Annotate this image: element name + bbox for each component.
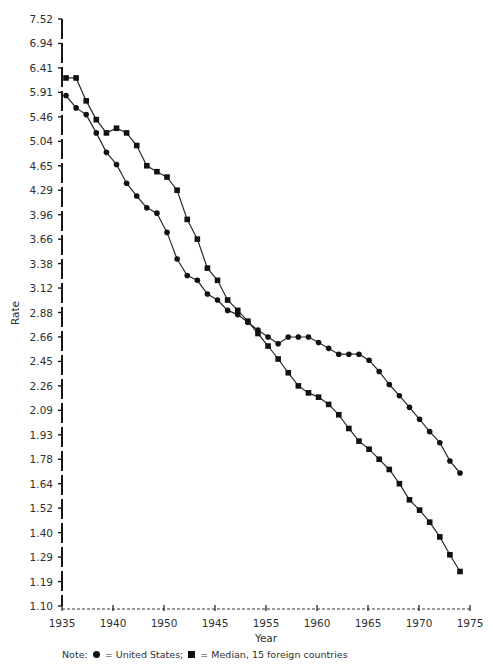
circle-marker-icon (124, 180, 130, 186)
circle-marker-icon (386, 382, 392, 388)
square-marker-icon (205, 265, 211, 271)
y-tick-label: 1.10 (30, 600, 53, 612)
y-tick-label: 7.52 (30, 13, 53, 25)
circle-marker-icon (296, 334, 302, 340)
square-marker-icon (306, 390, 312, 396)
square-marker-icon (134, 143, 140, 149)
y-tick-label: 5.46 (30, 111, 54, 123)
legend-note: Note: = United States; = Median, 15 fore… (62, 649, 348, 660)
square-marker-icon (437, 534, 443, 540)
square-marker-icon (144, 163, 150, 169)
x-axis: 193519401950194519551960196519701975 (49, 605, 484, 629)
square-marker-icon (296, 383, 302, 389)
square-marker-icon (326, 402, 332, 408)
square-marker-icon (174, 187, 180, 193)
square-marker-icon (104, 130, 110, 136)
series-foreign-median (63, 75, 463, 574)
x-tick-label: 1945 (202, 617, 229, 629)
y-tick-label: 3.66 (30, 233, 54, 245)
circle-marker-icon (437, 440, 443, 446)
circle-marker-icon (205, 291, 211, 297)
square-marker-icon (366, 446, 372, 452)
circle-marker-icon (417, 416, 423, 422)
square-marker-icon (397, 481, 403, 487)
circle-marker-icon (144, 205, 150, 211)
y-axis: 7.526.946.415.915.465.044.654.293.963.66… (30, 13, 62, 612)
square-marker-icon (63, 75, 69, 81)
x-tick-label: 1935 (49, 617, 76, 629)
square-marker-icon (265, 343, 271, 349)
y-tick-label: 1.64 (30, 478, 54, 490)
circle-marker-icon (316, 340, 322, 346)
circle-marker-icon (83, 112, 89, 118)
x-tick-label: 1975 (457, 617, 484, 629)
y-tick-label: 5.04 (30, 135, 54, 147)
circle-marker-icon (93, 651, 100, 658)
square-marker-icon (245, 318, 251, 324)
circle-marker-icon (114, 162, 120, 168)
series-layer (63, 75, 463, 574)
x-tick-label: 1970 (406, 617, 433, 629)
circle-marker-icon (63, 93, 69, 99)
circle-marker-icon (356, 351, 362, 357)
y-tick-label: 4.29 (30, 184, 53, 196)
circle-marker-icon (285, 334, 291, 340)
circle-marker-icon (447, 458, 453, 464)
y-tick-label: 2.66 (30, 331, 54, 343)
line-chart: 7.526.946.415.915.465.044.654.293.963.66… (0, 0, 493, 669)
square-marker-icon (94, 117, 100, 123)
y-tick-label: 2.26 (30, 380, 54, 392)
square-marker-icon (346, 426, 352, 432)
x-tick-label: 1955 (253, 617, 280, 629)
square-marker-icon (114, 125, 120, 131)
circle-marker-icon (164, 230, 170, 236)
square-marker-icon (235, 308, 241, 314)
square-marker-icon (154, 169, 160, 175)
circle-marker-icon (346, 351, 352, 357)
square-marker-icon (407, 497, 413, 503)
square-marker-icon (215, 278, 221, 284)
y-tick-label: 3.96 (30, 209, 54, 221)
square-marker-icon (275, 356, 281, 362)
circle-marker-icon (306, 334, 312, 340)
y-tick-label: 1.78 (30, 453, 53, 465)
y-tick-label: 3.12 (30, 282, 53, 294)
square-marker-icon (164, 174, 170, 180)
circle-marker-icon (275, 341, 281, 347)
square-marker-icon (356, 438, 362, 444)
x-axis-title: Year (254, 632, 278, 644)
y-tick-label: 6.94 (30, 37, 54, 49)
series-united-states (63, 93, 463, 476)
circle-marker-icon (397, 393, 403, 399)
note-prefix: Note: (62, 649, 88, 660)
circle-marker-icon (225, 308, 231, 314)
square-marker-icon (376, 456, 382, 462)
square-marker-icon (124, 130, 130, 136)
circle-marker-icon (457, 470, 463, 476)
y-tick-label: 1.93 (30, 429, 53, 441)
circle-marker-icon (326, 346, 332, 352)
circle-marker-icon (94, 130, 100, 136)
x-tick-label: 1965 (355, 617, 382, 629)
circle-marker-icon (215, 297, 221, 303)
circle-marker-icon (73, 105, 79, 111)
circle-marker-icon (174, 256, 180, 262)
circle-marker-icon (336, 351, 342, 357)
y-tick-label: 2.45 (30, 355, 53, 367)
circle-marker-icon (407, 405, 413, 411)
square-marker-icon (386, 467, 392, 473)
circle-marker-icon (376, 369, 382, 375)
legend-us-label: = United States; (105, 649, 184, 660)
square-marker-icon (73, 75, 79, 81)
square-marker-icon (427, 519, 433, 525)
y-tick-label: 2.09 (30, 404, 53, 416)
square-marker-icon (316, 394, 322, 400)
square-marker-icon (457, 569, 463, 575)
y-tick-label: 1.52 (30, 502, 53, 514)
circle-marker-icon (195, 278, 201, 284)
y-tick-label: 1.29 (30, 551, 53, 563)
x-tick-label: 1960 (304, 617, 331, 629)
square-marker-icon (225, 297, 231, 303)
circle-marker-icon (265, 334, 271, 340)
y-tick-label: 2.88 (30, 307, 53, 319)
